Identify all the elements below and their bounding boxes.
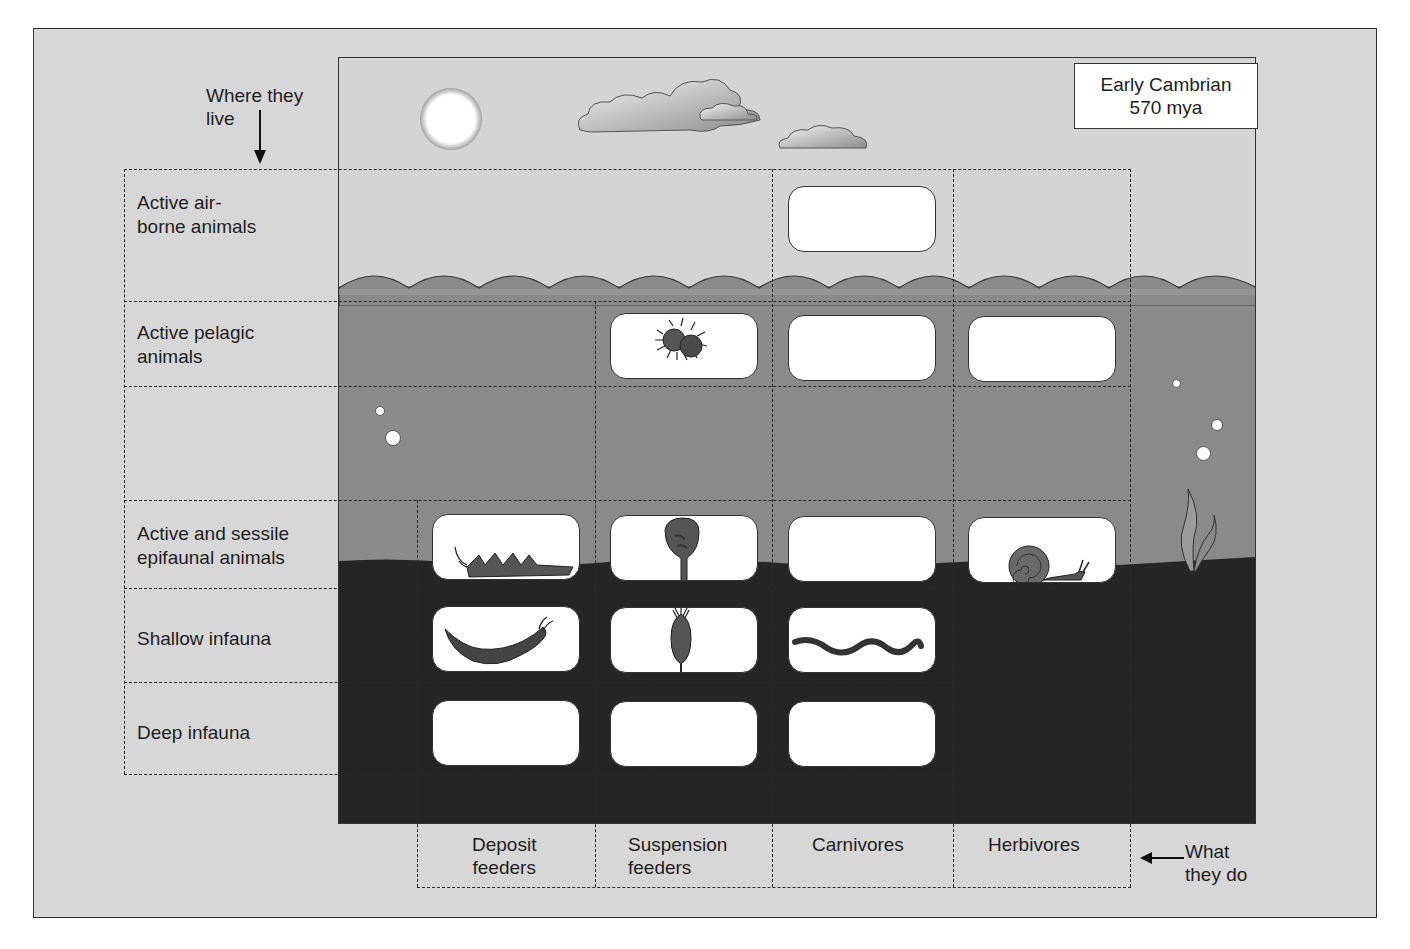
- bubble-icon: [1211, 419, 1223, 431]
- cell-pelagic-suspension: [610, 313, 758, 379]
- gridline: [417, 500, 418, 887]
- gridline: [124, 774, 954, 775]
- row-label-deep-infauna: Deep infauna: [137, 721, 250, 745]
- sun-icon: [420, 88, 482, 150]
- gridline: [124, 500, 1131, 501]
- arthropod-larva-icon: [433, 607, 580, 672]
- gridline: [417, 887, 1131, 888]
- cell-deep-deposit: [432, 700, 580, 766]
- row-label-airborne: Active air- borne animals: [137, 191, 256, 239]
- cell-shallow-suspension: [610, 607, 758, 673]
- cell-shallow-deposit: [432, 606, 580, 672]
- arrow-left-icon: [1140, 850, 1186, 866]
- snail-icon: [969, 518, 1116, 583]
- cell-deep-carnivore: [788, 701, 936, 767]
- arthropod-icon: [433, 515, 580, 580]
- bubble-icon: [1196, 446, 1211, 461]
- column-label-carnivores: Carnivores: [812, 833, 904, 856]
- bubble-icon: [375, 406, 385, 416]
- column-label-deposit-feeders: Deposit feeders: [472, 833, 536, 879]
- gridline: [953, 169, 954, 887]
- cell-deep-suspension: [610, 701, 758, 767]
- sponge-icon: [611, 516, 758, 581]
- arthropod-icon: [611, 314, 758, 379]
- bubble-icon: [385, 430, 401, 446]
- column-label-herbivores: Herbivores: [988, 833, 1080, 856]
- gridline: [124, 169, 125, 774]
- gridline: [124, 386, 1131, 387]
- row-label-pelagic: Active pelagic animals: [137, 321, 254, 369]
- x-axis-title: What they do: [1185, 840, 1247, 886]
- cell-shallow-carnivore: [788, 607, 936, 673]
- cell-airborne-carnivore: [788, 186, 936, 252]
- row-label-shallow-infauna: Shallow infauna: [137, 627, 271, 651]
- cell-pelagic-herbivore: [968, 316, 1116, 382]
- sediment-layer: [339, 565, 1255, 823]
- era-name: Early Cambrian: [1075, 73, 1257, 96]
- water-surface-waves: [339, 266, 1256, 306]
- gridline: [124, 588, 1131, 589]
- gridline: [1130, 169, 1131, 887]
- worm-icon: [789, 608, 936, 673]
- era-label: Early Cambrian 570 mya: [1074, 63, 1258, 129]
- cell-epifaunal-deposit: [432, 514, 580, 580]
- sea-pen-icon: [611, 608, 758, 673]
- seaweed-icon: [1172, 485, 1220, 575]
- gridline: [595, 301, 596, 887]
- cell-epifaunal-carnivore: [788, 516, 936, 582]
- gridline: [124, 301, 1131, 302]
- bubble-icon: [1172, 379, 1181, 388]
- column-label-suspension-feeders: Suspension feeders: [628, 833, 727, 879]
- cloud-icon: [570, 70, 890, 160]
- gridline: [124, 682, 954, 683]
- gridline: [124, 169, 1131, 170]
- gridline: [772, 169, 773, 887]
- row-label-epifaunal: Active and sessile epifaunal animals: [137, 522, 289, 570]
- cell-epifaunal-herbivore: [968, 517, 1116, 583]
- arrow-down-icon: [252, 110, 268, 166]
- cell-pelagic-carnivore: [788, 315, 936, 381]
- cell-epifaunal-suspension: [610, 515, 758, 581]
- era-age: 570 mya: [1075, 96, 1257, 119]
